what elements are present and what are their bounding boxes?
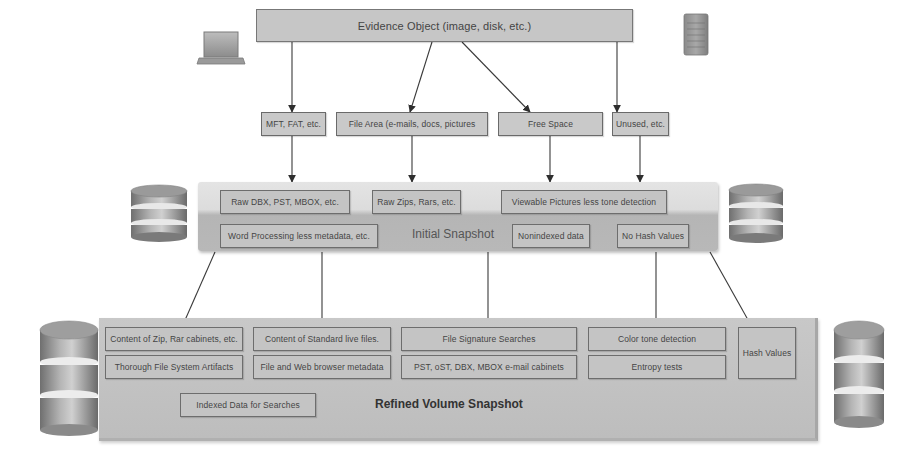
refined-item-hash-values: Hash Values (738, 327, 796, 379)
server-tower-icon (683, 13, 709, 56)
database-icon-refined-left (38, 318, 100, 438)
laptop-icon (196, 30, 246, 68)
database-icon-initial-left (129, 184, 189, 244)
refined-item-standard-live-files: Content of Standard live files. (253, 327, 391, 351)
refined-item-file-system-artifacts: Thorough File System Artifacts (105, 355, 243, 379)
refined-item-entropy-tests: Entropy tests (588, 355, 726, 379)
initial-item-word-processing: Word Processing less metadata, etc. (220, 224, 378, 248)
initial-item-raw-zips: Raw Zips, Rars, etc. (372, 190, 461, 214)
initial-item-raw-dbx: Raw DBX, PST, MBOX, etc. (220, 190, 350, 214)
database-icon-initial-right (727, 182, 785, 244)
source-box-mft-fat: MFT, FAT, etc. (261, 112, 326, 136)
initial-snapshot-title: Initial Snapshot (412, 227, 494, 241)
source-box-free-space: Free Space (498, 112, 603, 136)
refined-item-zip-rar-content: Content of Zip, Rar cabinets, etc. (105, 327, 243, 351)
refined-item-color-tone-detection: Color tone detection (588, 327, 726, 351)
refined-item-indexed-data: Indexed Data for Searches (180, 393, 316, 417)
refined-volume-snapshot-title: Refined Volume Snapshot (375, 397, 523, 411)
initial-item-nonindexed-data: Nonindexed data (512, 224, 590, 248)
initial-item-no-hash-values: No Hash Values (617, 224, 689, 248)
refined-item-file-signature-searches: File Signature Searches (401, 327, 577, 351)
refined-item-browser-metadata: File and Web browser metadata (253, 355, 391, 379)
source-box-file-area: File Area (e-mails, docs, pictures (336, 112, 488, 136)
database-icon-refined-right (832, 318, 886, 430)
source-box-unused: Unused, etc. (612, 112, 669, 136)
evidence-object-box: Evidence Object (image, disk, etc.) (256, 9, 633, 42)
refined-item-email-cabinets: PST, oST, DBX, MBOX e-mail cabinets (401, 355, 577, 379)
initial-item-viewable-pictures: Viewable Pictures less tone detection (501, 190, 667, 214)
